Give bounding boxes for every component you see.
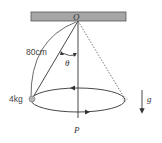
dashed-string (78, 21, 125, 99)
path-arrow-bottom-icon (85, 110, 90, 115)
length-label: 80cm (26, 47, 47, 57)
axis-point-label: P (73, 125, 80, 135)
angle-label: θ (65, 58, 70, 68)
pivot-label: O (73, 12, 80, 22)
mass-bob (29, 96, 35, 102)
mass-label: 4kg (9, 94, 23, 104)
pendulum-string (32, 21, 78, 99)
angle-arrow-right-icon (73, 53, 77, 57)
gravity-label: g (147, 94, 152, 104)
angle-arrow-left-icon (60, 51, 64, 55)
path-arrow-top-icon (70, 86, 75, 91)
conical-pendulum-diagram: O 80cm θ 4kg P g (0, 0, 162, 143)
